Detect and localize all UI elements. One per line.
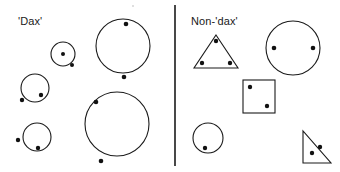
dax-small-circle-dot-1 bbox=[61, 52, 65, 56]
dax-medium-circle-dot-2 bbox=[20, 98, 24, 102]
dax-large-circle-bottom bbox=[85, 92, 149, 163]
nondax-square-outline bbox=[243, 80, 275, 113]
shape-group-dax bbox=[16, 19, 150, 163]
dax-medium-circle bbox=[20, 74, 49, 102]
dax-small-circle-dot-2 bbox=[70, 63, 74, 67]
dax-bottom-circle-dot-1 bbox=[36, 146, 40, 150]
dax-medium-circle-dot-1 bbox=[39, 93, 43, 97]
nondax-circle-outline bbox=[193, 123, 223, 153]
column-label-nondax: Non-'dax' bbox=[191, 15, 238, 27]
nondax-right-triangle bbox=[303, 131, 331, 163]
nondax-square-dot-2 bbox=[265, 104, 269, 108]
nondax-large-circle-dot-2 bbox=[311, 46, 316, 51]
nondax-right-triangle-dot-1 bbox=[310, 151, 314, 155]
nondax-square-dot-1 bbox=[248, 85, 252, 89]
nondax-right-triangle-outline bbox=[303, 131, 331, 163]
nondax-circle bbox=[193, 123, 223, 153]
nondax-triangle-dot-1 bbox=[214, 39, 218, 43]
dax-large-circle-bottom-dot-1 bbox=[94, 100, 99, 105]
nondax-triangle-dot-3 bbox=[228, 61, 232, 65]
shape-layer bbox=[0, 0, 340, 172]
artifact-dot bbox=[132, 5, 134, 7]
nondax-square bbox=[243, 80, 275, 113]
nondax-right-triangle-dot-2 bbox=[318, 145, 322, 149]
dax-small-circle bbox=[51, 42, 75, 67]
shape-group-non-dax bbox=[193, 21, 331, 163]
nondax-triangle-dot-2 bbox=[200, 61, 204, 65]
dax-large-circle-bottom-dot-2 bbox=[99, 159, 104, 164]
nondax-triangle bbox=[194, 35, 238, 68]
dax-large-circle-top bbox=[96, 19, 150, 79]
nondax-large-circle bbox=[266, 21, 320, 75]
dax-large-circle-top-outline bbox=[96, 19, 150, 73]
dax-bottom-circle-dot-2 bbox=[16, 138, 20, 142]
dax-large-circle-top-dot-2 bbox=[122, 75, 127, 80]
nondax-circle-dot-1 bbox=[203, 146, 207, 150]
figure-canvas: 'Dax' Non-'dax' bbox=[0, 0, 340, 172]
nondax-large-circle-dot-1 bbox=[272, 46, 277, 51]
dax-large-circle-top-dot-1 bbox=[124, 22, 129, 27]
column-label-dax: 'Dax' bbox=[18, 15, 42, 27]
dax-medium-circle-outline bbox=[21, 74, 49, 102]
dax-bottom-circle bbox=[16, 123, 51, 151]
